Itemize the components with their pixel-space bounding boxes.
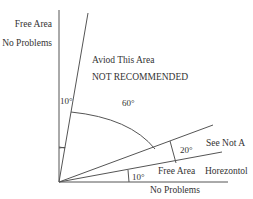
avoid-area-label: Aviod This Area bbox=[92, 55, 155, 65]
no-problems-bottom-label: No Problems bbox=[150, 185, 200, 195]
sixty-degree-label: 60° bbox=[122, 98, 135, 108]
free-area-bottom-label: Free Area bbox=[158, 166, 196, 176]
twenty-degree-label: 20° bbox=[180, 145, 193, 155]
ten-degree-horizontal-tick bbox=[128, 170, 129, 182]
see-not-a-label: See Not A bbox=[206, 138, 245, 148]
ten-degree-horizontal-label: 10° bbox=[132, 172, 145, 182]
sixty-degree-arc bbox=[71, 112, 155, 149]
free-area-top-label: Free Area bbox=[15, 19, 53, 29]
horizontal-label: Horezontol bbox=[205, 166, 248, 176]
ten-degree-vertical-label: 10° bbox=[60, 96, 73, 106]
angle-zone-diagram: Free Area No Problems Aviod This Area NO… bbox=[0, 0, 253, 199]
twenty-degree-tick bbox=[170, 141, 176, 163]
not-recommended-label: NOT RECOMMENDED bbox=[92, 72, 188, 82]
no-problems-top-label: No Problems bbox=[2, 38, 52, 48]
